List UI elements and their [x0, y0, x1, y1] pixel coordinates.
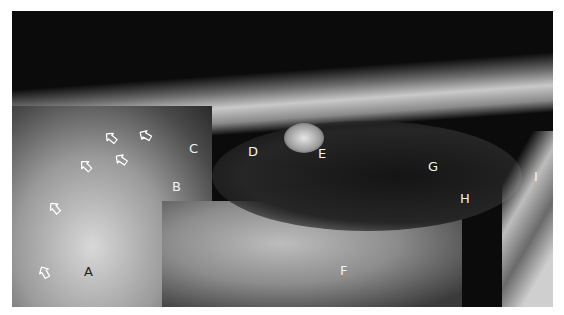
- label-b: B: [172, 180, 181, 193]
- label-g: G: [428, 160, 438, 173]
- radiograph-image: [12, 11, 553, 307]
- label-d: D: [248, 145, 258, 158]
- label-h: H: [460, 192, 470, 205]
- hind-limb: [502, 131, 553, 307]
- label-a: A: [84, 265, 93, 278]
- gas-region: [212, 121, 522, 231]
- label-c: C: [189, 142, 198, 155]
- label-e: E: [318, 147, 326, 160]
- label-f: F: [340, 264, 347, 277]
- label-i: I: [534, 170, 538, 183]
